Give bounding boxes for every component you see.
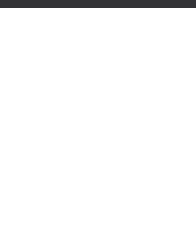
diagram-page: [0, 0, 196, 242]
fretboard-diagram: [0, 0, 196, 242]
